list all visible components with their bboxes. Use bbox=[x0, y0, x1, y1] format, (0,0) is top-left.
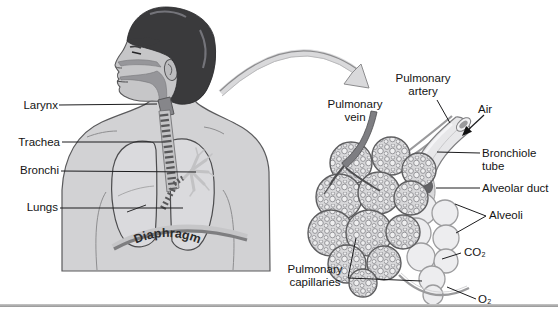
label-bronchiole-tube: Bronchiole tube bbox=[482, 147, 544, 173]
larynx-leader bbox=[59, 104, 157, 105]
respiratory-system-diagram: Diaphragm bbox=[0, 0, 558, 312]
bottom-rule-line bbox=[0, 304, 558, 307]
label-lungs: Lungs bbox=[8, 201, 58, 214]
label-pulmonary-vein: Pulmonary vein bbox=[322, 98, 388, 124]
label-pulmonary-artery: Pulmonary artery bbox=[390, 72, 456, 98]
label-alveoli: Alveoli bbox=[489, 209, 523, 222]
label-air: Air bbox=[478, 103, 492, 116]
label-bronchi: Bronchi bbox=[8, 164, 59, 177]
diagram-artwork: Diaphragm bbox=[0, 0, 558, 312]
label-pulmonary-capillaries: Pulmonary capillaries bbox=[282, 263, 348, 289]
person-illustration: Diaphragm bbox=[62, 7, 270, 271]
zoom-arrow bbox=[220, 51, 369, 96]
label-trachea: Trachea bbox=[8, 136, 60, 149]
alveoli-leader-fork bbox=[455, 204, 486, 233]
pulmonary-artery-leader bbox=[437, 100, 450, 123]
label-co2: CO₂ bbox=[464, 246, 486, 259]
label-larynx: Larynx bbox=[8, 99, 58, 112]
label-alveolar-duct: Alveolar duct bbox=[482, 182, 548, 195]
